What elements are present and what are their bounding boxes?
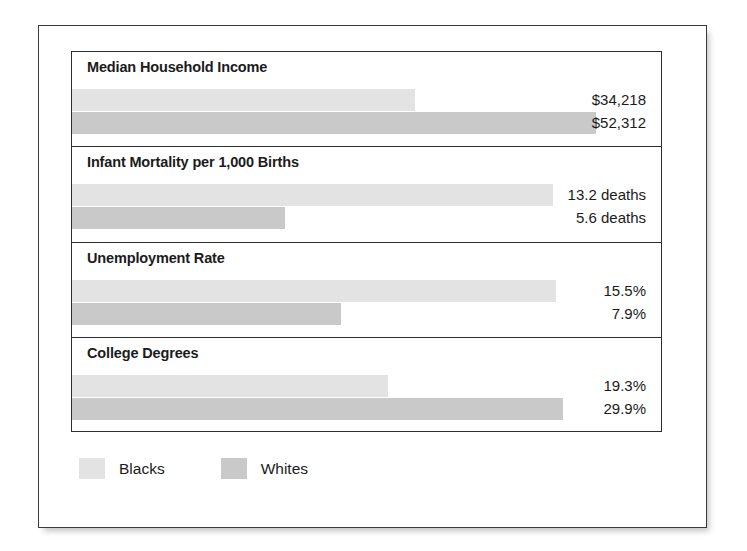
bar-value-whites: 5.6 deaths (576, 207, 646, 229)
page-frame: Median Household Income $34,218 $52,312 … (38, 25, 707, 528)
bar-line-blacks: $34,218 (72, 89, 661, 111)
row-title: Infant Mortality per 1,000 Births (87, 154, 299, 170)
bar-blacks (72, 184, 553, 206)
chart-row-infant-mortality: Infant Mortality per 1,000 Births 13.2 d… (72, 147, 661, 242)
bar-value-whites: 29.9% (603, 398, 646, 420)
bar-value-blacks: 19.3% (603, 375, 646, 397)
bar-line-whites: 5.6 deaths (72, 207, 661, 229)
bar-whites (72, 303, 341, 325)
bar-whites (72, 207, 285, 229)
legend-label-whites: Whites (261, 460, 308, 478)
bar-line-whites: $52,312 (72, 112, 661, 134)
chart-row-unemployment-rate: Unemployment Rate 15.5% 7.9% (72, 243, 661, 338)
row-title: Median Household Income (87, 59, 267, 75)
bar-line-whites: 7.9% (72, 303, 661, 325)
bar-blacks (72, 280, 556, 302)
legend-swatch-icon-whites (221, 458, 247, 479)
bar-value-blacks: $34,218 (592, 89, 646, 111)
bar-value-blacks: 15.5% (603, 280, 646, 302)
bar-line-blacks: 15.5% (72, 280, 661, 302)
bar-line-blacks: 13.2 deaths (72, 184, 661, 206)
bar-line-whites: 29.9% (72, 398, 661, 420)
chart-row-college-degrees: College Degrees 19.3% 29.9% (72, 338, 661, 433)
bar-blacks (72, 375, 388, 397)
legend-swatch-icon-blacks (79, 458, 105, 479)
row-title: College Degrees (87, 345, 198, 361)
bar-value-blacks: 13.2 deaths (568, 184, 646, 206)
bars-area: 15.5% 7.9% (72, 276, 661, 337)
bars-area: $34,218 $52,312 (72, 85, 661, 146)
chart-legend: Blacks Whites (79, 458, 364, 479)
chart-row-median-household-income: Median Household Income $34,218 $52,312 (72, 52, 661, 147)
legend-item-whites: Whites (221, 458, 308, 479)
bar-whites (72, 398, 563, 420)
bars-area: 13.2 deaths 5.6 deaths (72, 180, 661, 241)
bar-whites (72, 112, 596, 134)
bars-area: 19.3% 29.9% (72, 371, 661, 433)
comparison-chart-table: Median Household Income $34,218 $52,312 … (71, 51, 662, 432)
bar-line-blacks: 19.3% (72, 375, 661, 397)
bar-value-whites: $52,312 (592, 112, 646, 134)
bar-value-whites: 7.9% (612, 303, 646, 325)
legend-item-blacks: Blacks (79, 458, 165, 479)
bar-blacks (72, 89, 415, 111)
row-title: Unemployment Rate (87, 250, 225, 266)
legend-label-blacks: Blacks (119, 460, 165, 478)
